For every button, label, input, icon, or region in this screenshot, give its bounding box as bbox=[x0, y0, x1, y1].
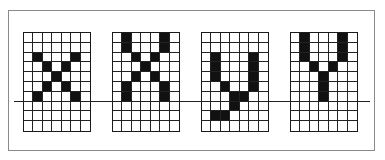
pixel-off bbox=[151, 102, 160, 112]
pixel-off bbox=[202, 53, 211, 63]
pixel-off bbox=[249, 102, 258, 112]
pixel-on bbox=[338, 43, 347, 53]
pixel-on bbox=[141, 62, 150, 72]
pixel-off bbox=[151, 82, 160, 92]
pixel-off bbox=[160, 111, 169, 121]
pixel-off bbox=[24, 111, 33, 121]
pixel-off bbox=[291, 53, 300, 63]
pixel-off bbox=[151, 111, 160, 121]
pixel-on bbox=[52, 72, 61, 82]
pixel-off bbox=[141, 121, 150, 131]
pixel-off bbox=[62, 111, 71, 121]
pixel-on bbox=[122, 33, 131, 43]
pixel-off bbox=[230, 121, 239, 131]
pixel-off bbox=[338, 72, 347, 82]
pixel-off bbox=[122, 102, 131, 112]
pixel-off bbox=[132, 62, 141, 72]
pixel-off bbox=[81, 33, 90, 43]
pixel-off bbox=[81, 53, 90, 63]
pixel-off bbox=[113, 111, 122, 121]
pixel-off bbox=[338, 62, 347, 72]
pixel-off bbox=[132, 33, 141, 43]
pixel-off bbox=[329, 111, 338, 121]
pixel-off bbox=[319, 53, 328, 63]
pixel-off bbox=[24, 33, 33, 43]
pixel-off bbox=[249, 121, 258, 131]
pixel-off bbox=[202, 102, 211, 112]
pixel-off bbox=[52, 43, 61, 53]
pixel-off bbox=[160, 62, 169, 72]
pixel-off bbox=[52, 33, 61, 43]
pixel-off bbox=[52, 102, 61, 112]
pixel-off bbox=[113, 102, 122, 112]
pixel-off bbox=[230, 111, 239, 121]
pixel-off bbox=[348, 33, 357, 43]
pixel-off bbox=[338, 121, 347, 131]
pixel-off bbox=[211, 102, 220, 112]
pixel-on bbox=[151, 72, 160, 82]
pixel-on bbox=[132, 53, 141, 63]
pixel-off bbox=[319, 33, 328, 43]
pixel-off bbox=[43, 43, 52, 53]
pixel-off bbox=[259, 121, 268, 131]
pixel-off bbox=[71, 62, 80, 72]
pixel-off bbox=[329, 33, 338, 43]
pixel-off bbox=[24, 72, 33, 82]
pixel-off bbox=[33, 121, 42, 131]
pixel-off bbox=[170, 121, 179, 131]
pixel-off bbox=[230, 72, 239, 82]
pixel-on bbox=[151, 53, 160, 63]
pixel-off bbox=[310, 102, 319, 112]
pixel-off bbox=[221, 53, 230, 63]
glyph-grid-x bbox=[23, 32, 91, 132]
pixel-on bbox=[211, 62, 220, 72]
pixel-off bbox=[122, 111, 131, 121]
pixel-off bbox=[230, 82, 239, 92]
pixel-off bbox=[170, 62, 179, 72]
pixel-off bbox=[122, 121, 131, 131]
pixel-off bbox=[300, 111, 309, 121]
pixel-off bbox=[319, 102, 328, 112]
pixel-off bbox=[113, 72, 122, 82]
pixel-off bbox=[291, 72, 300, 82]
pixel-off bbox=[132, 111, 141, 121]
pixel-off bbox=[71, 33, 80, 43]
pixel-off bbox=[81, 72, 90, 82]
pixel-off bbox=[221, 62, 230, 72]
pixel-off bbox=[319, 111, 328, 121]
pixel-off bbox=[310, 53, 319, 63]
pixel-on bbox=[300, 43, 309, 53]
pixel-off bbox=[348, 62, 357, 72]
pixel-off bbox=[211, 82, 220, 92]
pixel-on bbox=[62, 62, 71, 72]
pixel-off bbox=[259, 33, 268, 43]
pixel-off bbox=[141, 43, 150, 53]
pixel-off bbox=[170, 82, 179, 92]
pixel-on bbox=[211, 53, 220, 63]
pixel-off bbox=[71, 72, 80, 82]
pixel-off bbox=[221, 43, 230, 53]
pixel-off bbox=[329, 82, 338, 92]
pixel-on bbox=[43, 62, 52, 72]
pixel-off bbox=[202, 33, 211, 43]
pixel-off bbox=[240, 62, 249, 72]
pixel-off bbox=[71, 43, 80, 53]
pixel-off bbox=[338, 111, 347, 121]
pixel-off bbox=[329, 102, 338, 112]
pixel-off bbox=[151, 33, 160, 43]
pixel-on bbox=[249, 72, 258, 82]
pixel-off bbox=[113, 62, 122, 72]
pixel-on bbox=[249, 82, 258, 92]
pixel-off bbox=[211, 43, 220, 53]
pixel-off bbox=[132, 43, 141, 53]
pixel-off bbox=[221, 33, 230, 43]
pixel-off bbox=[221, 72, 230, 82]
pixel-off bbox=[33, 72, 42, 82]
pixel-off bbox=[329, 121, 338, 131]
pixel-off bbox=[62, 72, 71, 82]
pixel-on bbox=[221, 111, 230, 121]
pixel-off bbox=[141, 111, 150, 121]
pixel-off bbox=[329, 72, 338, 82]
pixel-off bbox=[81, 62, 90, 72]
pixel-off bbox=[43, 102, 52, 112]
